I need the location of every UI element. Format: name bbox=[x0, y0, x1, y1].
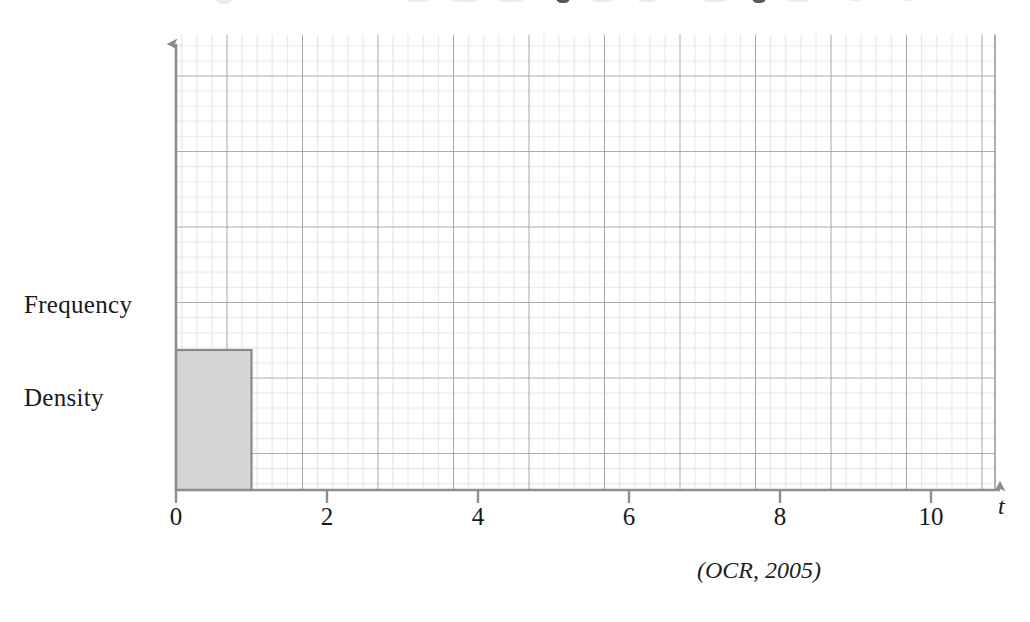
histogram-graph-paper bbox=[0, 0, 1030, 622]
x-tick-label-2: 2 bbox=[321, 503, 334, 531]
figure-page: Frequency Density 0 2 4 6 8 10 t (OCR, 2… bbox=[0, 0, 1030, 622]
x-tick-label-0: 0 bbox=[170, 503, 183, 531]
y-axis-title: Frequency Density bbox=[24, 227, 132, 475]
x-tick-label-6: 6 bbox=[623, 503, 636, 531]
y-axis-title-line-2: Density bbox=[24, 382, 132, 413]
y-axis-title-line-1: Frequency bbox=[24, 289, 132, 320]
x-axis-variable-label: t bbox=[998, 491, 1005, 522]
source-attribution: (OCR, 2005) bbox=[697, 557, 821, 584]
histogram-bar-0-1 bbox=[176, 350, 252, 490]
plotted-bars bbox=[176, 350, 252, 490]
x-tick-label-4: 4 bbox=[472, 503, 485, 531]
x-tick-label-8: 8 bbox=[774, 503, 787, 531]
x-tick-label-10: 10 bbox=[919, 503, 944, 531]
graph-paper-grid bbox=[176, 35, 995, 491]
grid-area bbox=[176, 35, 995, 491]
x-axis-ticks bbox=[176, 490, 931, 503]
